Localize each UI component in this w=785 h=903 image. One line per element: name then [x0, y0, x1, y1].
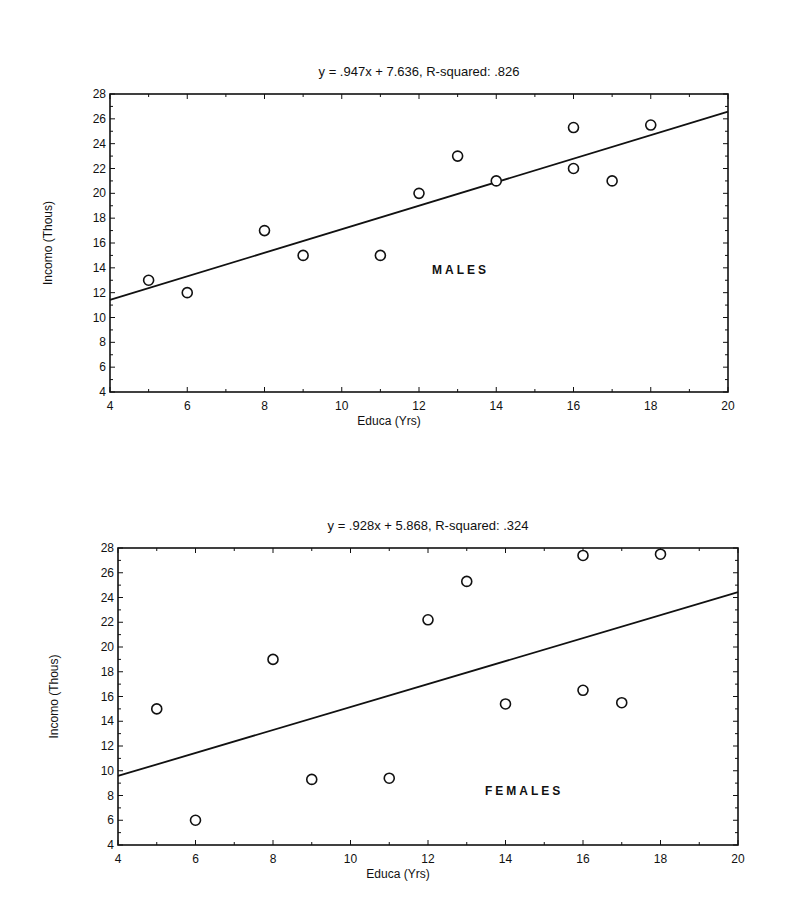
y-tick-label: 8 [99, 335, 106, 349]
y-tick-label: 14 [101, 714, 115, 728]
males-scatter-plot: y = .947x + 7.636, R-squared: .826468101… [0, 0, 785, 450]
x-tick-label: 14 [499, 852, 513, 866]
y-tick-label: 4 [107, 838, 114, 852]
y-tick-label: 22 [93, 162, 107, 176]
data-point [414, 188, 424, 198]
y-tick-label: 24 [93, 137, 107, 151]
x-tick-label: 18 [644, 399, 658, 413]
y-tick-label: 28 [101, 541, 115, 555]
x-tick-label: 4 [115, 852, 122, 866]
data-point [578, 685, 588, 695]
x-tick-label: 14 [490, 399, 504, 413]
y-tick-label: 20 [93, 186, 107, 200]
x-tick-label: 4 [107, 399, 114, 413]
females-chart: y = .928x + 5.868, R-squared: .324468101… [0, 450, 785, 903]
x-tick-label: 8 [270, 852, 277, 866]
x-tick-label: 8 [261, 399, 268, 413]
females-scatter-plot: y = .928x + 5.868, R-squared: .324468101… [0, 450, 785, 903]
y-tick-label: 16 [101, 690, 115, 704]
plot-frame [110, 94, 728, 392]
y-tick-label: 6 [99, 360, 106, 374]
data-point [384, 773, 394, 783]
data-point [607, 176, 617, 186]
data-point [656, 549, 666, 559]
y-tick-label: 14 [93, 261, 107, 275]
x-tick-label: 6 [184, 399, 191, 413]
y-tick-label: 26 [101, 566, 115, 580]
group-label: FEMALES [485, 784, 563, 798]
y-tick-label: 22 [101, 615, 115, 629]
group-label: MALES [432, 263, 489, 277]
y-tick-label: 12 [93, 286, 107, 300]
regression-line [110, 112, 728, 300]
x-tick-label: 16 [567, 399, 581, 413]
y-tick-label: 26 [93, 112, 107, 126]
y-tick-label: 16 [93, 236, 107, 250]
chart-title: y = .928x + 5.868, R-squared: .324 [328, 518, 529, 533]
data-point [491, 176, 501, 186]
y-tick-label: 6 [107, 813, 114, 827]
y-tick-label: 28 [93, 87, 107, 101]
x-tick-label: 20 [721, 399, 735, 413]
x-tick-label: 12 [421, 852, 435, 866]
data-point [152, 704, 162, 714]
males-chart: y = .947x + 7.636, R-squared: .826468101… [0, 0, 785, 450]
data-point [569, 123, 579, 133]
x-tick-label: 12 [412, 399, 426, 413]
data-point [453, 151, 463, 161]
y-tick-label: 18 [93, 211, 107, 225]
x-tick-label: 16 [576, 852, 590, 866]
y-tick-label: 24 [101, 591, 115, 605]
x-axis-label: Educa (Yrs) [366, 867, 429, 881]
y-tick-label: 20 [101, 640, 115, 654]
data-point [307, 774, 317, 784]
data-point [260, 226, 270, 236]
chart-title: y = .947x + 7.636, R-squared: .826 [319, 64, 520, 79]
y-tick-label: 10 [101, 764, 115, 778]
data-point [423, 615, 433, 625]
x-tick-label: 20 [731, 852, 745, 866]
y-tick-label: 8 [107, 789, 114, 803]
y-tick-label: 10 [93, 311, 107, 325]
y-tick-label: 12 [101, 739, 115, 753]
x-tick-label: 6 [192, 852, 199, 866]
y-axis-label: Incomo (Thous) [47, 654, 61, 738]
data-point [191, 815, 201, 825]
data-point [646, 120, 656, 130]
data-point [268, 654, 278, 664]
data-point [617, 698, 627, 708]
data-point [375, 250, 385, 260]
data-point [298, 250, 308, 260]
data-point [144, 275, 154, 285]
plot-frame [118, 548, 738, 845]
data-point [578, 550, 588, 560]
x-tick-label: 10 [344, 852, 358, 866]
x-tick-label: 10 [335, 399, 349, 413]
y-axis-label: Incomo (Thous) [41, 201, 55, 285]
x-tick-label: 18 [654, 852, 668, 866]
y-tick-label: 4 [99, 385, 106, 399]
data-point [182, 288, 192, 298]
x-axis-label: Educa (Yrs) [357, 414, 420, 428]
y-tick-label: 18 [101, 665, 115, 679]
data-point [501, 699, 511, 709]
data-point [569, 164, 579, 174]
data-point [462, 576, 472, 586]
